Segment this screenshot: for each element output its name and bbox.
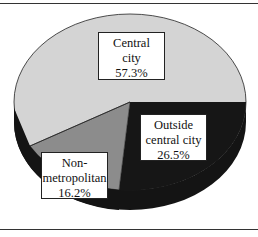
label-line: central city <box>141 133 206 148</box>
label-line: metropolitan <box>42 171 107 186</box>
label-value: 26.5% <box>141 148 206 163</box>
label-line: Central <box>99 36 164 51</box>
label-central-city: Central city 57.3% <box>98 32 165 80</box>
label-non-metropolitan: Non- metropolitan 16.2% <box>41 152 108 199</box>
label-outside-central-city: Outside central city 26.5% <box>140 114 207 161</box>
label-value: 16.2% <box>42 186 107 201</box>
label-line: city <box>99 51 164 66</box>
label-value: 57.3% <box>99 66 164 81</box>
bottom-rule <box>0 229 258 230</box>
label-line: Non- <box>42 156 107 171</box>
label-line: Outside <box>141 118 206 133</box>
